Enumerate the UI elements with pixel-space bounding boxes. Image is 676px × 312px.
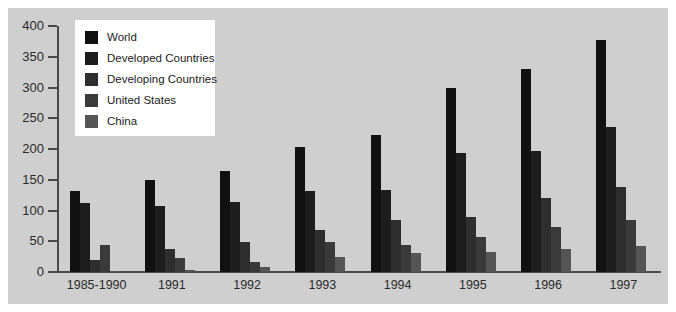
bar-group <box>596 26 646 272</box>
y-axis-tick-label: 200 <box>2 142 44 155</box>
bar <box>596 40 606 272</box>
bar <box>305 191 315 272</box>
bar <box>185 270 195 272</box>
legend-swatch-icon <box>85 94 98 107</box>
x-axis-tick-label: 1993 <box>285 278 360 292</box>
bar <box>476 237 486 272</box>
y-axis-tick <box>48 25 57 27</box>
y-axis-tick <box>48 117 57 119</box>
x-axis-tick-label: 1997 <box>586 278 661 292</box>
bar <box>616 187 626 272</box>
legend-item: Developed Countries <box>85 48 207 68</box>
bar-group <box>446 26 496 272</box>
bar <box>561 249 571 272</box>
bar <box>70 191 80 272</box>
bar <box>230 202 240 272</box>
bar <box>240 242 250 272</box>
bar <box>401 245 411 272</box>
legend-item: China <box>85 111 207 131</box>
bar <box>295 147 305 272</box>
bar <box>391 220 401 272</box>
bar-group <box>371 26 421 272</box>
bar <box>220 171 230 272</box>
bar <box>371 135 381 272</box>
bar <box>531 151 541 272</box>
bar-group <box>295 26 345 272</box>
bar <box>486 252 496 272</box>
bar <box>100 245 110 272</box>
bar <box>335 257 345 272</box>
legend-item-label: Developing Countries <box>107 73 217 85</box>
legend-swatch-icon <box>85 31 98 44</box>
y-axis-tick-label: 150 <box>2 173 44 186</box>
bar-group <box>220 26 270 272</box>
y-axis-tick <box>48 271 57 273</box>
x-axis-tick-label: 1985-1990 <box>59 278 134 292</box>
y-axis-tick-label: 350 <box>2 50 44 63</box>
x-axis-tick-label: 1995 <box>435 278 510 292</box>
y-axis-tick-label: 400 <box>2 19 44 32</box>
y-axis-tick <box>48 148 57 150</box>
bar <box>626 220 636 272</box>
bar <box>446 88 456 273</box>
bar <box>381 190 391 272</box>
y-axis-tick <box>48 240 57 242</box>
legend-item-label: Developed Countries <box>107 52 214 64</box>
y-axis-tick <box>48 56 57 58</box>
legend-item: United States <box>85 90 207 110</box>
y-axis-tick-label: 300 <box>2 81 44 94</box>
bar <box>541 198 551 272</box>
legend-item-label: World <box>107 31 137 43</box>
legend-swatch-icon <box>85 52 98 65</box>
legend-item-label: China <box>107 115 137 127</box>
legend-item-label: United States <box>107 94 176 106</box>
bar <box>110 271 120 272</box>
y-axis-tick <box>48 210 57 212</box>
bar <box>175 258 185 272</box>
bar <box>466 217 476 272</box>
chart-figure: 050100150200250300350400 1985-1990199119… <box>0 0 676 312</box>
y-axis-tick-label: 50 <box>2 234 44 247</box>
y-axis-labels: 050100150200250300350400 <box>0 0 44 312</box>
x-axis-tick-label: 1994 <box>360 278 435 292</box>
bar <box>80 203 90 272</box>
bar <box>411 253 421 272</box>
y-axis-tick <box>48 179 57 181</box>
x-axis-tick-label: 1996 <box>511 278 586 292</box>
bar <box>456 153 466 272</box>
y-axis-tick-label: 0 <box>2 265 44 278</box>
y-axis-tick-label: 250 <box>2 111 44 124</box>
bar <box>250 262 260 272</box>
bar <box>155 206 165 272</box>
bar <box>90 260 100 272</box>
bar <box>260 267 270 272</box>
legend-swatch-icon <box>85 115 98 128</box>
legend-item: World <box>85 27 207 47</box>
x-axis-tick-label: 1992 <box>210 278 285 292</box>
legend-item: Developing Countries <box>85 69 207 89</box>
bar <box>521 69 531 272</box>
bar <box>315 230 325 272</box>
x-axis-tick-label: 1991 <box>134 278 209 292</box>
bar <box>606 127 616 272</box>
chart-legend: WorldDeveloped CountriesDeveloping Count… <box>75 20 215 136</box>
y-axis-tick-label: 100 <box>2 204 44 217</box>
bar <box>325 242 335 272</box>
y-axis-tick <box>48 87 57 89</box>
legend-swatch-icon <box>85 73 98 86</box>
bar <box>145 180 155 272</box>
bar-group <box>521 26 571 272</box>
bar <box>636 246 646 272</box>
bar <box>165 249 175 272</box>
bar <box>551 227 561 272</box>
